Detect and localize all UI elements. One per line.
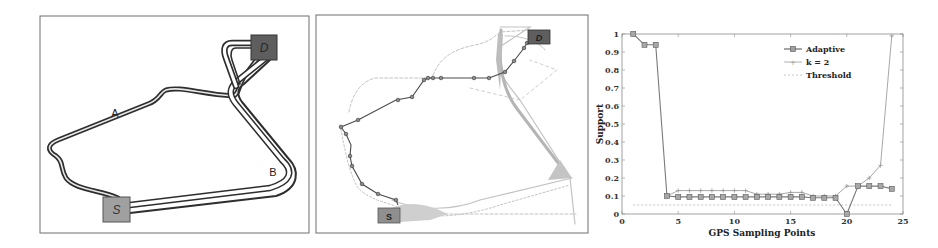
x-tick-label: 0	[619, 216, 625, 226]
trajectory-map-panel: S D	[315, 0, 595, 248]
trajectory-map: S D	[315, 0, 595, 248]
x-tick-label: 25	[897, 216, 908, 226]
y-tick-label: 0.8	[605, 65, 619, 75]
y-tick-label: 0.4	[605, 137, 619, 147]
legend-label-threshold: Threshold	[806, 70, 852, 80]
x-tick-label: 10	[729, 216, 741, 226]
plot-area	[622, 34, 903, 214]
y-axis-label: Support	[595, 103, 605, 144]
y-tick-label: 0.6	[605, 101, 619, 111]
source-label: S	[112, 203, 120, 217]
route-diagram: S D A B	[0, 0, 315, 248]
y-tick-label: 0.1	[605, 191, 619, 201]
route-diagram-panel: S D A B	[0, 0, 315, 248]
destination-label: D	[260, 41, 269, 55]
y-tick-label: 0.9	[605, 47, 619, 57]
x-tick-label: 5	[675, 216, 681, 226]
destination-label: D	[536, 33, 543, 43]
y-tick-label: 1	[613, 29, 619, 39]
legend-label-k2: k = 2	[806, 57, 829, 67]
x-axis-label: GPS Sampling Points	[709, 228, 816, 238]
route-b-label: B	[269, 166, 276, 178]
y-tick-label: 0.2	[605, 173, 619, 183]
y-tick-label: 0.5	[605, 119, 619, 129]
svg-text:+: +	[790, 59, 796, 67]
y-tick-label: 0.3	[605, 155, 619, 165]
frame	[316, 15, 588, 233]
support-chart-panel: 00.10.20.30.40.50.60.70.80.91 0510152025…	[595, 0, 938, 248]
y-tick-label: 0.7	[605, 83, 619, 93]
support-chart: 00.10.20.30.40.50.60.70.80.91 0510152025…	[595, 0, 938, 248]
legend-item-k2: + k = 2	[784, 57, 829, 67]
x-tick-label: 20	[841, 216, 853, 226]
route-a-label: A	[111, 107, 119, 119]
x-tick-label: 15	[785, 216, 796, 226]
source-label: S	[386, 212, 392, 222]
legend-label-adaptive: Adaptive	[805, 44, 845, 54]
